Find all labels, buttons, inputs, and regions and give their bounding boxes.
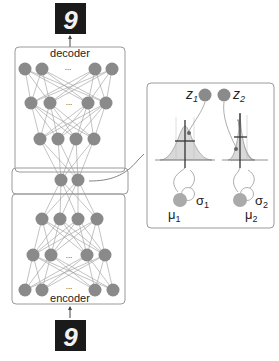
- encoder-ellipsis-2: ...: [66, 282, 73, 291]
- sample-arrow-2: [224, 102, 236, 147]
- input-digit-image: 9: [55, 320, 86, 352]
- encoder-label: encoder: [50, 292, 90, 304]
- output-digit-image: 9: [55, 3, 86, 35]
- mu1-connector: [174, 168, 185, 192]
- mu2-connector: [234, 168, 241, 192]
- input-arrow-head: [68, 306, 72, 310]
- gaussian-1: [155, 117, 215, 168]
- sigma1-label: σ1: [196, 193, 209, 210]
- svg-text:9: 9: [63, 5, 78, 35]
- gaussian-2: [222, 113, 268, 168]
- z2-label: z2: [232, 86, 245, 104]
- z1-node: [199, 89, 212, 102]
- sigma2-connector: [248, 170, 254, 188]
- decoder-ellipsis-2: ...: [66, 98, 73, 107]
- output-arrow-head: [68, 35, 72, 39]
- latent-nodes: [55, 174, 85, 187]
- svg-text:9: 9: [63, 322, 78, 352]
- mu1-label: μ1: [168, 207, 181, 224]
- z2-node: [218, 89, 231, 102]
- vae-diagram: 9 decoder: [0, 0, 279, 361]
- sigma1-connector: [190, 170, 195, 188]
- encoder-ellipsis-1: ...: [66, 251, 73, 260]
- mu1-node: [173, 193, 187, 207]
- mu2-label: μ2: [245, 207, 258, 224]
- decoder-ellipsis-1: ...: [65, 63, 72, 72]
- sample-arrow-1: [189, 102, 205, 131]
- sigma2-label: σ2: [255, 193, 268, 210]
- decoder-label: decoder: [50, 47, 90, 59]
- mu2-node: [233, 193, 247, 207]
- z1-label: z1: [185, 86, 198, 104]
